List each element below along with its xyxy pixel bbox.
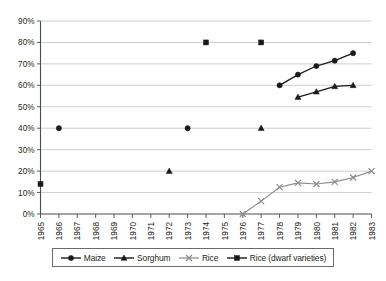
circle-marker-icon [60, 253, 82, 263]
chart-legend: MaizeSorghumRiceRice (dwarf varieties) [52, 248, 334, 267]
data-point-marker [185, 126, 190, 131]
y-axis-tick-label: 0% [23, 210, 35, 219]
legend-item-rice-dwarf-varieties[interactable]: Rice (dwarf varieties) [226, 253, 326, 263]
x-axis-tick-label: 1978 [276, 222, 285, 241]
y-axis-tick-label: 50% [18, 103, 34, 112]
x-axis-tick-label: 1974 [202, 222, 211, 241]
x-axis-tick-label: 1976 [239, 222, 248, 241]
y-axis-tick-label: 40% [18, 124, 34, 133]
y-axis-tick-label: 70% [18, 60, 34, 69]
y-axis-tick-label: 10% [18, 189, 34, 198]
line-chart-plot: 0%10%20%30%40%50%60%70%80%90%19651966196… [0, 0, 386, 281]
x-axis-tick-label: 1983 [368, 222, 377, 241]
x-axis-tick-label: 1967 [73, 222, 82, 241]
data-point-marker [38, 181, 43, 186]
x-axis-tick-label: 1982 [349, 222, 358, 241]
y-axis-tick-label: 80% [18, 38, 34, 47]
y-axis-tick-label: 30% [18, 146, 34, 155]
x-axis-tick-label: 1980 [313, 222, 322, 241]
series-maize [56, 51, 355, 131]
data-point-marker [258, 125, 264, 130]
x-axis-tick-label: 1973 [184, 222, 193, 241]
x-axis-tick-label: 1968 [92, 222, 101, 241]
legend-item-label: Sorghum [137, 253, 170, 263]
x-marker-icon [178, 253, 200, 263]
x-axis-tick-label: 1969 [110, 222, 119, 241]
series-rice-dwarf-varieties [38, 40, 264, 187]
legend-marker [68, 255, 73, 260]
y-axis-tick-label: 20% [18, 167, 34, 176]
data-point-marker [314, 63, 319, 68]
legend-marker [234, 255, 239, 260]
legend-item-maize[interactable]: Maize [60, 253, 106, 263]
x-axis-tick-label: 1975 [221, 222, 230, 241]
data-point-marker [204, 40, 209, 45]
y-axis-tick-label: 90% [18, 17, 34, 26]
x-axis-tick-label: 1981 [331, 222, 340, 241]
y-axis-tick-label: 60% [18, 81, 34, 90]
data-point-marker [259, 40, 264, 45]
legend-item-label: Rice [202, 253, 218, 263]
legend-item-sorghum[interactable]: Sorghum [113, 253, 170, 263]
data-point-marker [56, 126, 61, 131]
x-axis-tick-label: 1971 [147, 222, 156, 241]
data-point-marker [166, 168, 172, 173]
series-line [280, 53, 354, 85]
x-axis-tick-label: 1965 [37, 222, 46, 241]
triangle-marker-icon [113, 253, 135, 263]
data-point-marker [332, 58, 337, 63]
series-line [298, 85, 353, 97]
legend-item-rice[interactable]: Rice [178, 253, 218, 263]
square-marker-icon [226, 253, 248, 263]
x-axis-tick-label: 1977 [257, 222, 266, 241]
data-point-marker [277, 83, 282, 88]
chart-container: 0%10%20%30%40%50%60%70%80%90%19651966196… [0, 0, 386, 281]
data-point-marker [351, 51, 356, 56]
x-axis-tick-label: 1970 [129, 222, 138, 241]
x-axis-tick-label: 1966 [55, 222, 64, 241]
legend-item-label: Rice (dwarf varieties) [250, 253, 326, 263]
legend-item-label: Maize [84, 253, 106, 263]
series-sorghum [166, 82, 356, 173]
x-axis-tick-label: 1979 [294, 222, 303, 241]
data-point-marker [295, 72, 300, 77]
data-point-marker [258, 198, 264, 204]
x-axis-tick-label: 1972 [165, 222, 174, 241]
